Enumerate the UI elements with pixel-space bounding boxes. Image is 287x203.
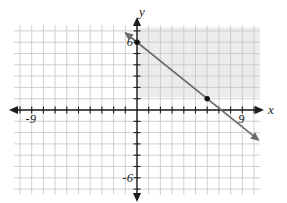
plot-layers: -996-6 (11, 19, 262, 200)
x-tick-label: -9 (25, 112, 36, 126)
shaded-region (137, 28, 260, 97)
x-axis-label: x (267, 102, 274, 117)
y-axis-label: y (137, 4, 145, 19)
data-point (134, 40, 139, 45)
graph-figure: -996-6 x y (0, 0, 287, 203)
coordinate-plane-svg: -996-6 x y (0, 0, 287, 203)
y-tick-label: -6 (123, 171, 134, 185)
data-point (205, 96, 210, 101)
